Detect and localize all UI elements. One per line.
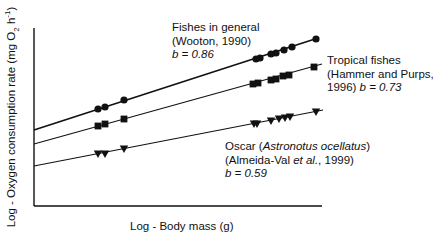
square-marker (286, 72, 293, 79)
square-marker (95, 123, 102, 130)
x-axis-label: Log - Body mass (g) (130, 220, 234, 232)
square-marker (121, 116, 128, 123)
circle-marker (312, 35, 319, 42)
annotation-fishes-in-general: Fishes in general (Wooton, 1990) b = 0.8… (172, 21, 260, 62)
circle-marker (280, 46, 287, 53)
series-citation: (Hammer and Purps, (327, 68, 434, 82)
slope-label: b = 0.59 (225, 167, 370, 181)
circle-marker (94, 105, 101, 112)
y-axis-label: Log - Oxygen consumption rate (mg O2 h-1… (3, 7, 20, 228)
square-marker (280, 73, 287, 80)
series-name: Tropical fishes (327, 54, 434, 68)
series-name: Fishes in general (172, 21, 260, 35)
series-citation: (Wooton, 1990) (172, 35, 260, 49)
triangle-down-marker (101, 151, 109, 159)
square-marker (273, 76, 280, 83)
slope-label: b = 0.86 (172, 48, 260, 62)
circle-marker (272, 49, 279, 56)
series-name: Oscar (Astronotus ocellatus) (225, 140, 370, 154)
square-marker (102, 121, 109, 128)
series-citation: (Almeida-Val et al., 1999) (225, 154, 370, 168)
triangle-down-marker (267, 118, 275, 126)
annotation-tropical-fishes: Tropical fishes (Hammer and Purps, 1996)… (327, 54, 434, 95)
annotation-oscar: Oscar (Astronotus ocellatus) (Almeida-Va… (225, 140, 370, 181)
slope-label: 1996) b = 0.73 (327, 81, 434, 95)
circle-marker (101, 103, 108, 110)
circle-marker (120, 96, 127, 103)
square-marker (255, 80, 262, 87)
circle-marker (288, 43, 295, 50)
square-marker (311, 64, 318, 71)
